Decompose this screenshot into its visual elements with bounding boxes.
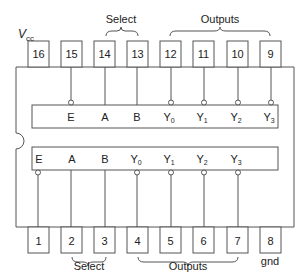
bottom-select-label: Select <box>74 260 105 272</box>
top-select-label: Select <box>106 13 137 25</box>
inversion-bubble <box>269 100 274 105</box>
gnd-label: gnd <box>261 255 279 267</box>
pin-number: 6 <box>200 235 206 247</box>
inversion-bubble <box>169 100 174 105</box>
top-pins: 16 15 14 13 12 11 10 9 <box>28 41 281 67</box>
ic-pinout-diagram: Vcc 16 15 14 13 12 11 10 9 Select Output… <box>0 0 305 273</box>
inversion-bubble <box>202 100 207 105</box>
bottom-outputs-label: Outputs <box>169 260 208 272</box>
pin-number: 12 <box>164 48 176 60</box>
signal-e: E <box>35 153 42 165</box>
inversion-bubble <box>202 170 207 175</box>
top-select-brace: Select <box>106 13 138 36</box>
bottom-pins: 1 2 3 4 5 6 7 8 <box>28 227 281 253</box>
pin-number: 1 <box>35 235 41 247</box>
bottom-decoder-wires <box>36 170 241 227</box>
inversion-bubble <box>36 170 41 175</box>
signal-b: B <box>133 111 140 123</box>
top-decoder-wires <box>69 67 274 105</box>
pin-number: 16 <box>32 48 44 60</box>
signal-a: A <box>101 111 109 123</box>
top-outputs-label: Outputs <box>201 13 240 25</box>
pin-number: 8 <box>267 235 273 247</box>
pin-number: 14 <box>98 48 110 60</box>
top-outputs-brace: Outputs <box>170 13 270 36</box>
pin-number: 5 <box>167 235 173 247</box>
inversion-bubble <box>69 100 74 105</box>
bottom-outputs-brace: Outputs <box>138 257 238 272</box>
pin-number: 4 <box>134 235 140 247</box>
signal-b: B <box>101 153 108 165</box>
inversion-bubble <box>169 170 174 175</box>
pin-number: 10 <box>231 48 243 60</box>
pin-number: 11 <box>198 48 209 60</box>
pin-number: 15 <box>65 48 77 60</box>
pin-number: 9 <box>267 48 273 60</box>
pin-number: 2 <box>68 235 74 247</box>
pin-number: 13 <box>131 48 143 60</box>
pin-number: 7 <box>234 235 240 247</box>
signal-a: A <box>68 153 76 165</box>
signal-e: E <box>67 111 74 123</box>
inversion-bubble <box>236 170 241 175</box>
inversion-bubble <box>236 100 241 105</box>
pin-number: 3 <box>101 235 107 247</box>
inversion-bubble <box>135 170 140 175</box>
